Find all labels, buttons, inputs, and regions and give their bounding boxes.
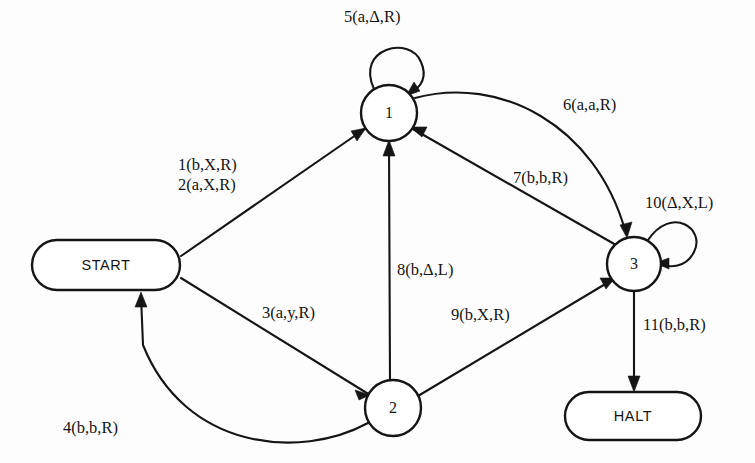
edge-4-curve — [141, 296, 368, 443]
edge-label-6: 6(a,a,R) — [563, 95, 616, 114]
edge-8-line — [389, 145, 390, 380]
node-state-3[interactable]: 3 — [607, 237, 661, 291]
edge-label-4: 4(b,b,R) — [63, 418, 118, 437]
edge-8-arrowhead — [383, 140, 395, 156]
node-state-1[interactable]: 1 — [361, 85, 417, 141]
halt-node-label: HALT — [614, 408, 652, 424]
edge-3-start-to-state2 — [181, 278, 370, 400]
edge-9-state2-to-state3 — [418, 278, 615, 396]
edge-4-arrowhead — [135, 292, 147, 307]
start-node-label: START — [81, 257, 130, 273]
node-state-2[interactable]: 2 — [365, 380, 421, 436]
edge-label-3: 3(a,y,R) — [262, 303, 315, 322]
edge-11-state3-to-halt — [628, 291, 640, 392]
edge-label-2: 2(a,X,R) — [178, 175, 236, 194]
edge-6-arrowhead — [620, 222, 632, 238]
state1-node-label: 1 — [385, 104, 393, 121]
edge-7-line — [413, 129, 616, 245]
edge-9-line — [418, 280, 612, 396]
turing-machine-diagram: START 1 2 3 HALT 1(b,X,R) 2(a,X,R) 3(a,y… — [0, 0, 755, 463]
edge-4-state2-to-start — [135, 292, 368, 443]
edge-label-1: 1(b,X,R) — [178, 155, 237, 174]
state2-node-label: 2 — [389, 399, 397, 416]
node-start[interactable]: START — [32, 240, 180, 290]
edge-1-2-arrowhead — [351, 128, 366, 141]
edge-3-line — [181, 278, 370, 395]
edge-label-11: 11(b,b,R) — [643, 315, 706, 334]
state3-node-label: 3 — [630, 255, 638, 272]
edge-label-10: 10(Δ,X,L) — [645, 193, 713, 212]
node-halt[interactable]: HALT — [565, 392, 701, 440]
edge-label-5: 5(a,Δ,R) — [344, 7, 400, 26]
edge-label-7: 7(b,b,R) — [513, 168, 568, 187]
state-diagram-canvas: START 1 2 3 HALT 1(b,X,R) 2(a,X,R) 3(a,y… — [0, 0, 755, 463]
edge-label-8: 8(b,Δ,L) — [397, 260, 453, 279]
edge-11-arrowhead — [628, 376, 640, 392]
edge-6-state1-to-state3 — [415, 92, 632, 238]
edge-label-9: 9(b,X,R) — [451, 305, 510, 324]
edge-8-state2-to-state1 — [383, 140, 395, 380]
